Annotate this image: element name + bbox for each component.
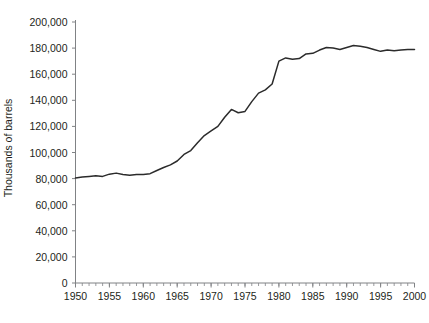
x-tick-label: 1975: [233, 290, 256, 302]
x-axis-major-ticks: [76, 283, 415, 288]
x-tick-label: 1960: [132, 290, 155, 302]
y-tick-label: 40,000: [0, 225, 68, 237]
y-tick-label: 0: [0, 277, 68, 289]
x-tick-label: 1955: [98, 290, 121, 302]
y-tick-label: 120,000: [0, 120, 68, 132]
x-tick-label: 1985: [301, 290, 324, 302]
y-tick-label: 100,000: [0, 147, 68, 159]
x-tick-label: 1950: [64, 290, 87, 302]
y-tick-label: 80,000: [0, 173, 68, 185]
y-tick-label: 200,000: [0, 16, 68, 28]
x-tick-label: 1965: [166, 290, 189, 302]
data-series-line: [76, 45, 415, 177]
y-tick-label: 60,000: [0, 199, 68, 211]
y-tick-label: 140,000: [0, 94, 68, 106]
x-tick-label: 1970: [199, 290, 222, 302]
y-axis-ticks: [72, 22, 76, 283]
y-tick-label: 160,000: [0, 68, 68, 80]
y-tick-label: 180,000: [0, 42, 68, 54]
chart-container: Thousands of barrels 020,00040,00060,000…: [0, 0, 429, 323]
axis-lines: [76, 20, 415, 283]
y-tick-label: 20,000: [0, 251, 68, 263]
x-tick-label: 1990: [335, 290, 358, 302]
x-tick-label: 1995: [369, 290, 392, 302]
x-tick-label: 2000: [403, 290, 426, 302]
x-tick-label: 1980: [267, 290, 290, 302]
